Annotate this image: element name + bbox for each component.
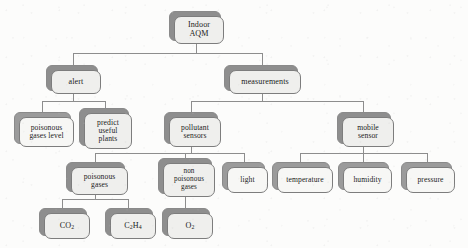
- node-face: pollutant sensors: [169, 117, 221, 147]
- node-label: C2H4: [124, 222, 141, 231]
- connector-to-co2: [62, 199, 63, 208]
- connector-root-down: [196, 44, 197, 53]
- connector-measurements-down: [262, 93, 263, 101]
- node-face: pressure: [406, 167, 455, 193]
- connector-pollutant-bus: [95, 153, 244, 154]
- node-face: O2: [167, 213, 213, 239]
- connector-to-c2h4: [128, 199, 129, 208]
- subscript: 2: [71, 224, 74, 230]
- connector-to-temperature: [300, 153, 301, 162]
- node-face: humidity: [343, 167, 392, 193]
- node-co2[interactable]: CO2: [39, 208, 85, 234]
- node-light[interactable]: light: [222, 162, 263, 188]
- connector-alert-down: [73, 93, 74, 101]
- node-face: CO2: [44, 213, 90, 239]
- node-face: Indoor AQM: [174, 16, 224, 44]
- connector-pollutant-down: [191, 146, 192, 153]
- subscript: 2: [191, 224, 194, 230]
- node-measurements[interactable]: measurements: [224, 65, 296, 89]
- subscript: 4: [139, 224, 142, 230]
- connector-to-light: [244, 153, 245, 162]
- connector-to-pollutant-sensors: [191, 101, 192, 112]
- node-face: non poisonous gases: [163, 163, 215, 197]
- hierarchy-diagram: Indoor AQM alert measurements poisonous …: [0, 0, 468, 248]
- node-label-line3: plants: [97, 135, 119, 143]
- connector-to-pressure: [427, 153, 428, 162]
- connector-measurements-bus: [191, 101, 363, 102]
- node-indoor-aqm[interactable]: Indoor AQM: [169, 11, 219, 39]
- node-humidity[interactable]: humidity: [338, 162, 387, 188]
- connector-root-bus: [73, 53, 262, 54]
- node-mobile-sensor[interactable]: mobile sensor: [337, 112, 389, 142]
- node-pressure[interactable]: pressure: [401, 162, 450, 188]
- connector-to-measurements: [262, 53, 263, 65]
- connector-to-humidity: [363, 153, 364, 162]
- node-face: poisonous gases level: [19, 117, 74, 147]
- node-label-line2: gases level: [29, 132, 63, 140]
- node-alert[interactable]: alert: [46, 65, 96, 89]
- node-predict-useful-plants[interactable]: predict useful plants: [79, 108, 127, 144]
- node-label-line2: sensor: [357, 132, 379, 140]
- node-temperature[interactable]: temperature: [272, 162, 328, 188]
- node-label-line3: gases: [174, 184, 204, 192]
- connector-poisonous-gases-bus: [62, 199, 128, 200]
- connector-alert-bus: [42, 101, 105, 102]
- node-face: alert: [51, 70, 101, 94]
- node-face: C2H4: [110, 213, 156, 239]
- node-face: measurements: [229, 70, 301, 94]
- connector-mobile-down: [363, 146, 364, 153]
- node-face: poisonous gases: [71, 167, 128, 195]
- connector-to-poisonous-gases: [95, 153, 96, 162]
- node-pollutant-sensors[interactable]: pollutant sensors: [164, 112, 216, 142]
- node-non-poisonous-gases[interactable]: non poisonous gases: [158, 158, 210, 192]
- node-o2[interactable]: O2: [162, 208, 208, 234]
- node-label: CO2: [60, 222, 74, 231]
- node-poisonous-gases-level[interactable]: poisonous gases level: [14, 112, 69, 142]
- node-label-line2: sensors: [181, 132, 209, 140]
- node-c2h4[interactable]: C2H4: [105, 208, 151, 234]
- node-label-line2: gases: [84, 181, 116, 189]
- node-face: mobile sensor: [342, 117, 394, 147]
- connector-to-poisonous-gases-level: [42, 101, 43, 112]
- node-face: temperature: [277, 167, 333, 193]
- connector-to-alert: [73, 53, 74, 65]
- node-face: light: [227, 167, 268, 193]
- connector-to-mobile-sensor: [363, 101, 364, 112]
- node-label: O2: [186, 222, 195, 231]
- node-label-line2: AQM: [188, 30, 210, 39]
- node-poisonous-gases[interactable]: poisonous gases: [66, 162, 123, 190]
- node-face: predict useful plants: [84, 113, 132, 149]
